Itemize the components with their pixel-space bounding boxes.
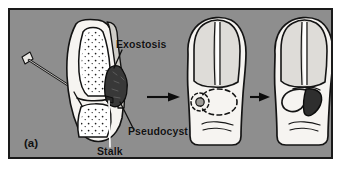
figure-root: (a) Exostosis Pseudocyst Stalk: [0, 0, 341, 177]
proximal-phalanx-trabeculae: [81, 107, 108, 135]
leader-line-stalk: [109, 101, 110, 147]
nail-highlight-band: [216, 22, 219, 85]
arrow-stage-2-to-3: [250, 93, 270, 102]
label-stalk: Stalk: [97, 145, 123, 157]
panel-3-dorsal-view-flap: [275, 18, 331, 145]
panel-letter: (a): [24, 137, 38, 149]
label-pseudocyst: Pseudocyst: [128, 125, 188, 137]
pseudocyst-punctum-2: [196, 98, 204, 106]
arrow-stage-1-to-2: [147, 93, 180, 102]
label-exostosis: Exostosis: [116, 38, 167, 50]
panel-2-dorsal-view-marked: [188, 18, 246, 145]
nail-highlight-band-3: [303, 22, 306, 85]
